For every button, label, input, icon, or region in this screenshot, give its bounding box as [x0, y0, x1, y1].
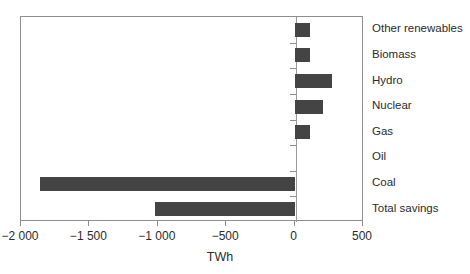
category-label: Oil: [372, 150, 386, 163]
category-label: Nuclear: [372, 99, 412, 112]
bar: [295, 23, 311, 37]
x-axis-tick: [88, 221, 89, 226]
x-axis-tick: [362, 221, 363, 226]
x-axis-tick: [20, 221, 21, 226]
category-tick: [290, 171, 296, 172]
category-tick: [290, 68, 296, 69]
x-axis-tick-label: −1 000: [138, 229, 175, 243]
category-label-column: Other renewablesBiomassHydroNuclearGasOi…: [372, 16, 470, 221]
x-axis-tick: [157, 221, 158, 226]
bar: [295, 74, 332, 88]
category-tick: [290, 120, 296, 121]
category-tick: [290, 196, 296, 197]
x-axis-tick-label: 0: [290, 229, 297, 243]
x-axis-tick-label: −2 000: [1, 229, 38, 243]
bar: [40, 177, 294, 191]
bar: [295, 48, 311, 62]
x-axis-tick-label: 500: [352, 229, 372, 243]
category-tick: [290, 145, 296, 146]
bar: [295, 125, 311, 139]
x-axis-tick: [225, 221, 226, 226]
category-tick: [290, 94, 296, 95]
bar: [155, 202, 295, 216]
bar: [295, 100, 324, 114]
category-tick: [290, 43, 296, 44]
category-label: Gas: [372, 125, 393, 138]
x-axis-tick-label: −1 500: [70, 229, 107, 243]
category-label: Hydro: [372, 74, 403, 87]
chart-title: [34, 0, 334, 3]
category-label: Total savings: [372, 202, 438, 215]
x-axis-tick-label: −500: [212, 229, 239, 243]
category-label: Coal: [372, 176, 396, 189]
category-label: Other renewables: [372, 22, 463, 35]
x-axis-title: TWh: [0, 250, 440, 264]
category-label: Biomass: [372, 48, 416, 61]
plot-area: [20, 16, 363, 221]
x-axis-tick: [294, 221, 295, 226]
